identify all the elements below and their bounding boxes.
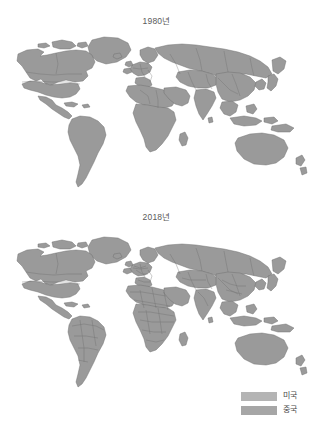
world-map-svg-2018 (0, 234, 313, 394)
world-map-1980 (0, 34, 313, 194)
world-map-2018 (0, 234, 313, 394)
world-map-svg-1980 (0, 34, 313, 194)
legend-label-china: 중국 (283, 406, 297, 414)
legend-swatch-china (241, 406, 277, 415)
legend-item-usa: 미국 (241, 390, 311, 402)
legend-item-china: 중국 (241, 404, 311, 416)
clipped-header-text: · · · (0, 0, 313, 3)
legend-label-usa: 미국 (283, 392, 297, 400)
legend: 미국 중국 (241, 390, 311, 418)
chart-page: · · · 1980년 (0, 0, 313, 436)
legend-swatch-usa (241, 392, 277, 401)
panel-label-1980: 1980년 (0, 14, 313, 26)
panel-label-2018: 2018년 (0, 210, 313, 222)
